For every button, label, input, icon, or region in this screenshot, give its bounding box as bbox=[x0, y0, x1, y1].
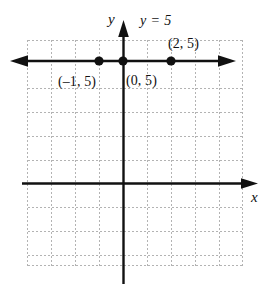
y-axis-label: y bbox=[108, 12, 115, 27]
point-label-two: (2, 5) bbox=[168, 37, 199, 51]
point-marker bbox=[118, 56, 127, 65]
line-equation-label: y = 5 bbox=[140, 14, 172, 28]
point-marker bbox=[166, 56, 175, 65]
x-axis bbox=[22, 178, 258, 189]
left-arrow-icon bbox=[10, 55, 28, 67]
point-label-zero: (0, 5) bbox=[126, 74, 157, 88]
x-axis-label: x bbox=[251, 190, 258, 205]
right-arrow-icon bbox=[218, 55, 236, 67]
graph-figure: y x y = 5 (–1, 5) (0, 5) (2, 5) bbox=[0, 0, 276, 288]
up-arrow-icon bbox=[118, 20, 129, 37]
right-arrow-icon bbox=[241, 178, 258, 189]
point-marker bbox=[94, 56, 103, 65]
point-label-negative-one: (–1, 5) bbox=[58, 75, 96, 89]
coordinate-plane-svg bbox=[0, 0, 276, 288]
